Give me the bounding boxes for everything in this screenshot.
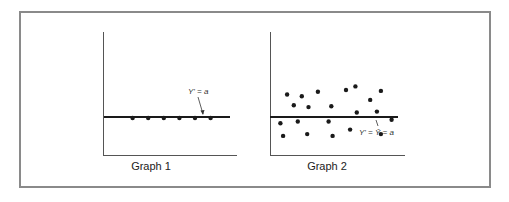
graph-2-caption: Graph 2 <box>287 160 367 172</box>
graph-2-line-label: Y' = Ȳ = a <box>359 128 394 137</box>
figure-canvas: Y' = a Y' = Ȳ = a <box>0 0 509 202</box>
data-point <box>379 89 383 93</box>
data-point <box>300 94 304 98</box>
data-point <box>355 110 359 114</box>
data-point <box>348 127 352 131</box>
data-point <box>330 134 334 138</box>
data-point <box>285 92 289 96</box>
data-point <box>162 116 166 120</box>
graph-1-line-label: Y' = a <box>188 87 209 96</box>
data-point <box>344 88 348 92</box>
data-point <box>292 103 296 107</box>
graph-2: Y' = Ȳ = a <box>270 32 405 156</box>
data-point <box>389 118 393 122</box>
graph-2-arrow <box>376 120 378 126</box>
data-point <box>353 84 357 88</box>
data-point <box>278 121 282 125</box>
data-point <box>208 116 212 120</box>
data-point <box>306 105 310 109</box>
data-point <box>146 116 150 120</box>
graph-1-caption: Graph 1 <box>111 160 191 172</box>
data-point <box>296 119 300 123</box>
data-point <box>368 98 372 102</box>
data-point <box>375 109 379 113</box>
data-point <box>305 132 309 136</box>
data-point <box>281 134 285 138</box>
data-point <box>193 116 197 120</box>
data-point <box>326 119 330 123</box>
data-point <box>316 90 320 94</box>
graph-1: Y' = a <box>103 32 237 156</box>
data-point <box>177 116 181 120</box>
data-point <box>130 116 134 120</box>
arrow-head-icon <box>201 110 205 115</box>
data-point <box>329 104 333 108</box>
